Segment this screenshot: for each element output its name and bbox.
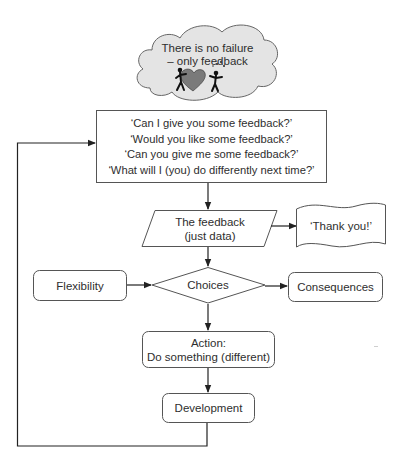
- scan-mark: [374, 346, 378, 347]
- feedback-line-1: The feedback: [175, 215, 245, 229]
- question-4: ‘What will I (you) do differently next t…: [108, 163, 314, 179]
- cloud-line-2: – only feedback: [167, 55, 248, 68]
- choices-label: Choices: [187, 278, 229, 292]
- feedback-node: The feedback (just data): [150, 211, 270, 246]
- action-line-2: Do something (different): [147, 350, 270, 364]
- cloud-caption: There is no failure – only feedback: [150, 41, 265, 69]
- question-3: ‘Can you give me some feedback?’: [124, 147, 298, 163]
- flexibility-label: Flexibility: [56, 279, 103, 293]
- action-line-1: Action:: [191, 336, 226, 350]
- development-node: Development: [163, 394, 254, 422]
- choices-node: Choices: [170, 276, 246, 294]
- consequences-node: Consequences: [289, 273, 382, 301]
- cloud-line-1: There is no failure: [161, 42, 253, 55]
- thank-you-node: ‘Thank you!’: [297, 211, 385, 241]
- questions-box: ‘Can I give you some feedback?’ ‘Would y…: [97, 112, 326, 182]
- feedback-flowchart: There is no failure – only feedback ‘Can…: [0, 0, 396, 462]
- thank-you-label: ‘Thank you!’: [310, 219, 372, 233]
- action-node: Action: Do something (different): [143, 332, 274, 367]
- question-2: ‘Would you like some feedback?’: [130, 132, 293, 148]
- flexibility-node: Flexibility: [34, 271, 126, 300]
- consequences-label: Consequences: [297, 280, 374, 294]
- development-label: Development: [175, 401, 243, 415]
- question-1: ‘Can I give you some feedback?’: [131, 116, 293, 132]
- feedback-line-2: (just data): [184, 229, 235, 243]
